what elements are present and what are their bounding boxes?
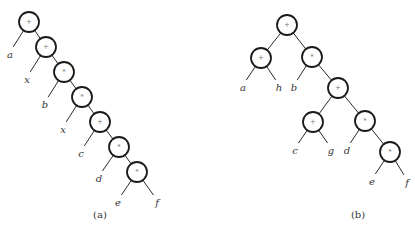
- operator-label: +: [26, 18, 32, 26]
- diagram-caption: (b): [351, 209, 365, 220]
- plus-operator-node: +: [277, 15, 297, 35]
- times-operator-node: *: [127, 162, 147, 182]
- operator-label: +: [335, 84, 341, 92]
- plus-operator-node: +: [303, 112, 323, 132]
- operator-label: +: [97, 118, 103, 126]
- operator-label: *: [388, 148, 392, 156]
- leaves: axbxcdef: [7, 49, 161, 208]
- operator-label: *: [117, 143, 121, 151]
- leaf-variable-f: f: [404, 177, 411, 188]
- operator-label: *: [363, 117, 367, 125]
- operator-label: *: [135, 168, 139, 176]
- expression-trees-canvas: ++**+**axbxcdef(a) ++*++**ahbcgdef(b): [0, 0, 415, 234]
- leaf-variable-b: b: [291, 82, 297, 93]
- expression-tree-b: ++*++**ahbcgdef(b): [240, 15, 411, 220]
- operator-label: *: [62, 68, 66, 76]
- times-operator-node: *: [355, 111, 375, 131]
- leaf-variable-g: g: [328, 145, 334, 156]
- operator-label: +: [310, 118, 316, 126]
- leaf-variable-b: b: [42, 99, 48, 110]
- times-operator-node: *: [380, 142, 400, 162]
- times-operator-node: *: [72, 87, 92, 107]
- times-operator-node: *: [302, 47, 322, 67]
- leaf-variable-a: a: [240, 82, 246, 93]
- leaf-variable-x: x: [24, 74, 30, 85]
- plus-operator-node: +: [90, 112, 110, 132]
- leaves: ahbcgdef: [240, 82, 411, 188]
- expression-tree-a: ++**+**axbxcdef(a): [7, 12, 161, 220]
- plus-operator-node: +: [36, 37, 56, 57]
- leaf-variable-d: d: [344, 145, 350, 156]
- leaf-variable-x: x: [60, 124, 66, 135]
- operator-label: *: [310, 53, 314, 61]
- leaf-variable-e: e: [369, 176, 375, 187]
- operator-label: +: [43, 43, 49, 51]
- operator-label: +: [284, 21, 290, 29]
- times-operator-node: *: [109, 137, 129, 157]
- plus-operator-node: +: [328, 78, 348, 98]
- leaf-variable-h: h: [276, 82, 282, 93]
- operator-label: *: [80, 93, 84, 101]
- operator-label: +: [258, 54, 264, 62]
- leaf-variable-c: c: [292, 145, 298, 156]
- plus-operator-node: +: [251, 48, 271, 68]
- leaf-variable-a: a: [7, 49, 13, 60]
- leaf-variable-c: c: [78, 148, 84, 159]
- plus-operator-node: +: [19, 12, 39, 32]
- leaf-variable-e: e: [115, 197, 121, 208]
- times-operator-node: *: [54, 62, 74, 82]
- leaf-variable-f: f: [154, 197, 161, 208]
- diagram-caption: (a): [93, 209, 107, 220]
- leaf-variable-d: d: [96, 173, 102, 184]
